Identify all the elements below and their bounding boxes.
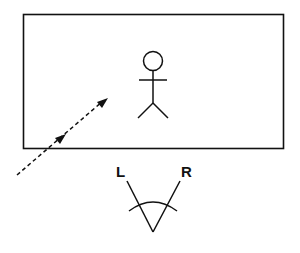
dashed-arrow-icon [17,98,108,175]
left-eye-label: L [116,163,125,180]
diagram-canvas: L R [0,0,300,253]
stick-figure-icon [138,52,168,119]
right-eye-label: R [181,163,192,180]
viewer-eye-icon [127,181,180,232]
